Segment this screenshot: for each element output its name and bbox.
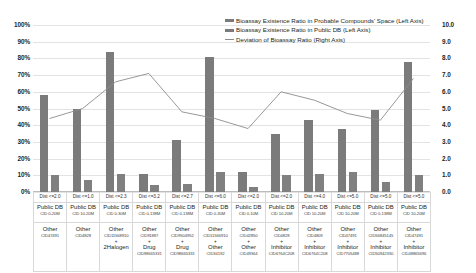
x-axis-column: Dist <=2.3Public DBCID 0-30MOtherCID1156… <box>99 192 133 272</box>
x-label-distance: Dist <=2.0 <box>232 192 264 203</box>
x-label-public-db: Public DBCID 10-20M <box>398 203 430 223</box>
x-label-public-db-title: Public DB <box>100 204 132 211</box>
x-label-modifier-cid: CID98665331 <box>133 251 165 257</box>
x-axis-column: Dist <=2.7Public DBCID 0-138MOtherCID950… <box>165 192 199 272</box>
x-label-modifier-title: Other <box>199 244 231 251</box>
x-label-other-title: Other <box>34 226 66 233</box>
x-label-distance: Dist <=1.0 <box>67 192 99 203</box>
x-label-public-db-title: Public DB <box>299 204 331 211</box>
x-label-public-db-cid: CID 0-10M <box>232 211 264 217</box>
x-label-modifier-cid: CID34192 <box>199 251 231 257</box>
x-label-distance: Dist <=2.0 <box>266 192 298 203</box>
y-right-tick-3: 7.0 <box>442 71 472 78</box>
x-axis-column: Dist <=4.0Public DBCID 10-20MOtherCID480… <box>298 192 332 272</box>
x-label-other-title: Other <box>166 226 198 233</box>
x-label-modifier-title: Inhibitor <box>332 244 364 251</box>
x-label-distance: Dist <=5.0 <box>332 192 364 203</box>
x-label-other-title: Other <box>299 226 331 233</box>
x-label-public-db: Public DBCID 10-20M <box>299 203 331 223</box>
legend-label-deviation: Deviation of Bioassay Ratio (Right Axis) <box>236 35 345 44</box>
x-label-public-db-cid: CID 0-30M <box>100 211 132 217</box>
x-axis-column: Dist <=5.0Public DBCID 10-20MOtherCID474… <box>331 192 365 272</box>
x-label-other: OtherCID4828 <box>67 223 99 272</box>
x-label-other: OtherCID9504952+DrugCID98665331 <box>166 223 198 272</box>
x-label-other: OtherCID47491 <box>34 223 66 272</box>
x-label-other-cid: CID47491 <box>34 233 66 239</box>
y-left-tick-5: 50% <box>0 105 30 112</box>
y-right-tick-1: 9.0 <box>442 38 472 45</box>
x-label-public-db: Public DBCID 0-10M <box>232 203 264 223</box>
x-axis-column: Dist <=2.0Public DBCID 10-20MOtherCID482… <box>265 192 299 272</box>
x-label-public-db-title: Public DB <box>199 204 231 211</box>
x-label-other-title: Other <box>133 226 165 233</box>
x-label-distance: Dist <=2.3 <box>100 192 132 203</box>
x-label-modifier-cid: CID98665331 <box>166 251 198 257</box>
legend-label-probable-space: Bioassay Existence Ratio in Probable Com… <box>236 16 424 25</box>
x-label-distance: Dist <=2.0 <box>34 192 66 203</box>
deviation-line-path <box>50 73 414 128</box>
y-left-tick-2: 80% <box>0 54 30 61</box>
x-label-public-db-title: Public DB <box>232 204 264 211</box>
y-left-tick-4: 60% <box>0 88 30 95</box>
y-left-tick-6: 40% <box>0 121 30 128</box>
x-label-modifier-cid: CID7705488 <box>332 251 364 257</box>
x-label-modifier-title: 2Halogen <box>100 244 132 251</box>
x-label-distance: Dist <=2.7 <box>166 192 198 203</box>
x-label-other-title: Other <box>232 226 264 233</box>
x-label-modifier-cid: CID49364 <box>232 251 264 257</box>
x-label-public-db: Public DBCID 10-20M <box>266 203 298 223</box>
x-label-public-db-cid: CID 0-138M <box>133 211 165 217</box>
x-label-other-cid: CID4828 <box>67 233 99 239</box>
x-axis-column: Dist <=1.0Public DBCID 10-20MOtherCID482… <box>66 192 100 272</box>
x-label-modifier-title: Inhibitor <box>365 244 397 251</box>
x-label-modifier-title: Other <box>232 244 264 251</box>
x-label-public-db-cid: CID 10-20M <box>398 211 430 217</box>
legend-item-deviation: Deviation of Bioassay Ratio (Right Axis) <box>225 35 424 44</box>
x-label-public-db: Public DBCID 0-138M <box>166 203 198 223</box>
x-label-public-db: Public DBCID 0-30M <box>100 203 132 223</box>
x-axis-column: Dist <=5.0Public DBCID 0-138MOtherCID568… <box>364 192 398 272</box>
plot-area <box>33 25 430 192</box>
x-axis-column: Dist <=2.0Public DBCID 0-20MOtherCID4749… <box>33 192 67 272</box>
y-right-tick-6: 4.0 <box>442 121 472 128</box>
legend-item-probable-space: Bioassay Existence Ratio in Probable Com… <box>225 16 424 25</box>
legend-swatch-bar-icon <box>225 19 234 22</box>
chart-legend: Bioassay Existence Ratio in Probable Com… <box>225 16 424 44</box>
x-label-public-db-title: Public DB <box>332 204 364 211</box>
bioassay-ratio-chart: Bioassay Existence Ratio in Probable Com… <box>0 0 476 273</box>
x-label-public-db-title: Public DB <box>266 204 298 211</box>
x-label-other: OtherCID11568910+2Halogen <box>100 223 132 272</box>
x-label-other-title: Other <box>365 226 397 233</box>
x-label-other: OtherCID47491+InhibitorCID48865696 <box>398 223 430 272</box>
x-label-modifier-title: Inhibitor <box>266 244 298 251</box>
x-label-public-db-cid: CID 10-20M <box>299 211 331 217</box>
y-left-tick-10: 0% <box>0 188 30 195</box>
x-label-other-title: Other <box>398 226 430 233</box>
y-right-tick-0: 10.0 <box>442 21 472 28</box>
legend-label-public-db: Bioassay Existence Ratio in Public DB (L… <box>236 25 370 34</box>
y-left-tick-7: 30% <box>0 138 30 145</box>
x-label-other: OtherCID47491+InhibitorCID7705488 <box>332 223 364 272</box>
x-label-other-title: Other <box>266 226 298 233</box>
x-label-public-db-title: Public DB <box>34 204 66 211</box>
y-right-tick-9: 1.0 <box>442 171 472 178</box>
x-label-public-db: Public DBCID 0-30M <box>199 203 231 223</box>
x-label-modifier-title: Inhibitor <box>398 244 430 251</box>
y-right-tick-2: 8.0 <box>442 54 472 61</box>
x-label-modifier-cid: CID6764C208 <box>299 251 331 257</box>
y-left-tick-0: 100% <box>0 21 30 28</box>
x-label-public-db: Public DBCID 0-20M <box>34 203 66 223</box>
x-label-other-title: Other <box>332 226 364 233</box>
x-label-distance: Dist <=4.0 <box>299 192 331 203</box>
x-label-public-db: Public DBCID 10-20M <box>67 203 99 223</box>
legend-swatch-line-icon <box>225 39 234 40</box>
x-label-other: OtherCID4828+InhibitorCID6764C208 <box>266 223 298 272</box>
x-label-public-db-title: Public DB <box>166 204 198 211</box>
y-right-tick-7: 3.0 <box>442 138 472 145</box>
x-label-public-db-title: Public DB <box>398 204 430 211</box>
x-label-other-title: Other <box>100 226 132 233</box>
x-label-public-db-cid: CID 0-20M <box>34 211 66 217</box>
x-label-public-db-cid: CID 10-20M <box>67 211 99 217</box>
x-label-public-db: Public DBCID 0-138M <box>365 203 397 223</box>
x-label-other: OtherCID91887+DrugCID98665331 <box>133 223 165 272</box>
